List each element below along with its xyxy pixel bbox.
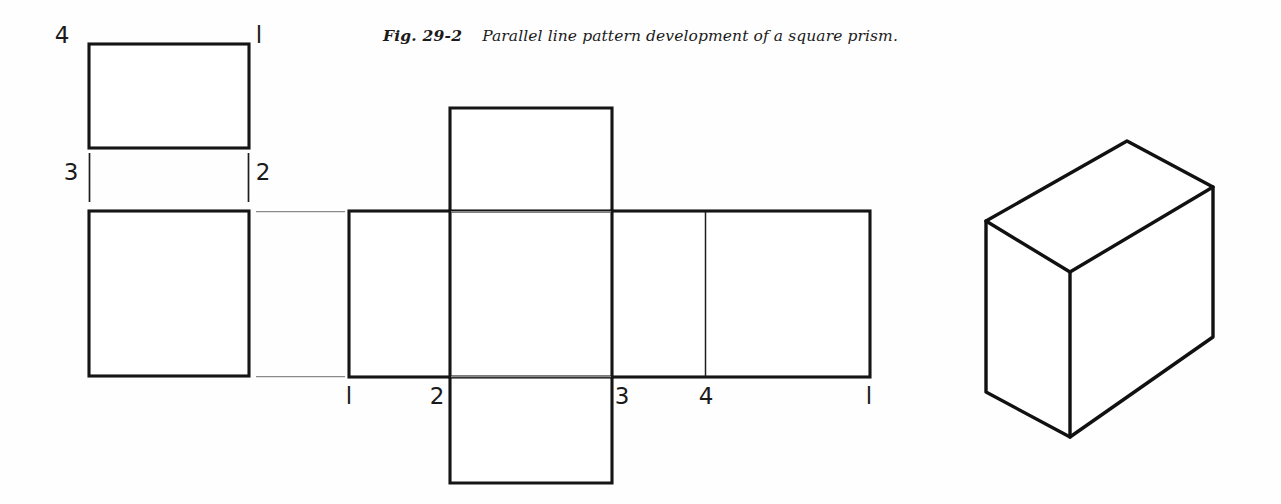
top-view-face	[89, 44, 249, 148]
label-development-3: 3	[615, 383, 630, 409]
development-bottom-flap-face	[450, 377, 612, 483]
front-to-development-projection-group	[256, 212, 345, 377]
development-strip-face	[349, 211, 870, 377]
label-development-1-left: l	[346, 383, 352, 409]
front-view-face	[89, 211, 249, 376]
label-development-4: 4	[699, 383, 714, 409]
pictorial-group	[986, 141, 1213, 437]
label-top-view-1: l	[256, 22, 262, 48]
front-view-group	[89, 211, 249, 376]
top-to-front-projection-group	[90, 153, 249, 202]
top-view-group	[89, 44, 249, 148]
technical-drawing-canvas: 4 l 3 2 l 2 3 4 l	[0, 0, 1281, 504]
label-top-view-4: 4	[55, 22, 70, 48]
development-top-flap-face	[450, 108, 612, 211]
label-top-view-2: 2	[256, 159, 271, 185]
label-top-view-3: 3	[64, 159, 79, 185]
label-development-1-right: l	[866, 383, 872, 409]
label-development-2: 2	[430, 383, 445, 409]
development-group	[349, 108, 870, 483]
figure-container: Fig. 29-2Parallel line pattern developme…	[0, 0, 1281, 504]
